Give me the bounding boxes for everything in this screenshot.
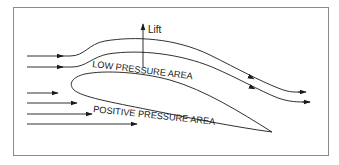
- airfoil-lift-diagram: Lift LOW PRESSURE AREA POSITIVE PRESSURE…: [0, 0, 339, 165]
- lift-label: Lift: [148, 24, 162, 35]
- upper-streamline-1: [27, 39, 306, 92]
- lift-vector: Lift: [143, 24, 162, 67]
- positive-pressure-label: POSITIVE PRESSURE AREA: [93, 104, 217, 127]
- diagram-frame: [14, 8, 329, 156]
